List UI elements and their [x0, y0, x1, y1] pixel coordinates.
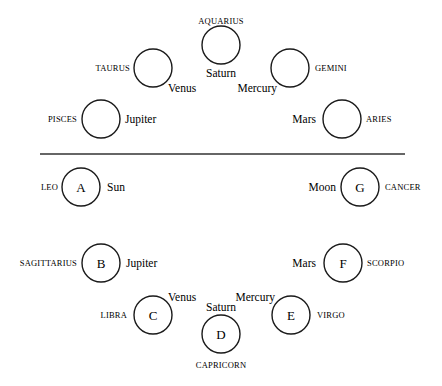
zodiac-sign-label: ARIES [366, 114, 392, 124]
node-c: CLIBRAVenus [101, 291, 197, 334]
planet-label: Saturn [206, 67, 236, 79]
node-letter: A [76, 180, 86, 195]
zodiac-sign-label: SAGITTARIUS [20, 258, 77, 268]
planet-label: Venus [168, 82, 197, 94]
node-b: BSAGITTARIUSJupiter [20, 244, 158, 282]
zodiac-planet-diagram: AQUARIUSSaturnTAURUSVenusGEMINIMercuryPI… [0, 0, 442, 386]
node-e: EVIRGOMercury [235, 291, 345, 334]
node-gemini: GEMINIMercury [237, 49, 346, 95]
zodiac-sign-label: SCORPIO [367, 258, 404, 268]
zodiac-sign-label: PISCES [48, 114, 77, 124]
node-aquarius: AQUARIUSSaturn [198, 16, 244, 79]
node-letter: D [216, 327, 225, 342]
planet-label: Saturn [206, 301, 236, 313]
planet-label: Jupiter [125, 113, 156, 126]
node-a: ALEOSun [41, 168, 125, 206]
zodiac-sign-label: CAPRICORN [196, 360, 246, 370]
node-letter: E [287, 308, 295, 323]
zodiac-sign-label: VIRGO [317, 310, 345, 320]
node-aries: ARIESMars [292, 100, 391, 138]
node-d: DCAPRICORNSaturn [196, 301, 246, 370]
planet-label: Mercury [237, 82, 277, 95]
node-f: FSCORPIOMars [292, 244, 404, 282]
planet-label: Mercury [235, 291, 275, 304]
zodiac-sign-label: CANCER [385, 182, 421, 192]
node-circle [202, 26, 240, 64]
zodiac-sign-label: LIBRA [101, 310, 128, 320]
top-section: AQUARIUSSaturnTAURUSVenusGEMINIMercuryPI… [48, 16, 392, 138]
zodiac-sign-label: AQUARIUS [198, 16, 244, 26]
zodiac-sign-label: TAURUS [95, 63, 130, 73]
node-circle [134, 49, 172, 87]
planet-label: Mars [292, 113, 316, 125]
bottom-section: ALEOSunGCANCERMoonBSAGITTARIUSJupiterFSC… [20, 168, 421, 370]
node-letter: G [355, 180, 364, 195]
planet-label: Moon [309, 181, 337, 193]
node-taurus: TAURUSVenus [95, 49, 196, 94]
planet-label: Sun [107, 181, 125, 193]
planet-label: Venus [168, 291, 197, 303]
planet-label: Jupiter [126, 257, 157, 270]
node-circle [82, 100, 120, 138]
node-pisces: PISCESJupiter [48, 100, 157, 138]
node-letter: F [339, 256, 346, 271]
planet-label: Mars [292, 257, 316, 269]
node-letter: C [149, 308, 158, 323]
node-g: GCANCERMoon [309, 168, 421, 206]
node-letter: B [97, 256, 106, 271]
zodiac-sign-label: GEMINI [315, 63, 347, 73]
node-circle [323, 100, 361, 138]
zodiac-sign-label: LEO [41, 182, 58, 192]
